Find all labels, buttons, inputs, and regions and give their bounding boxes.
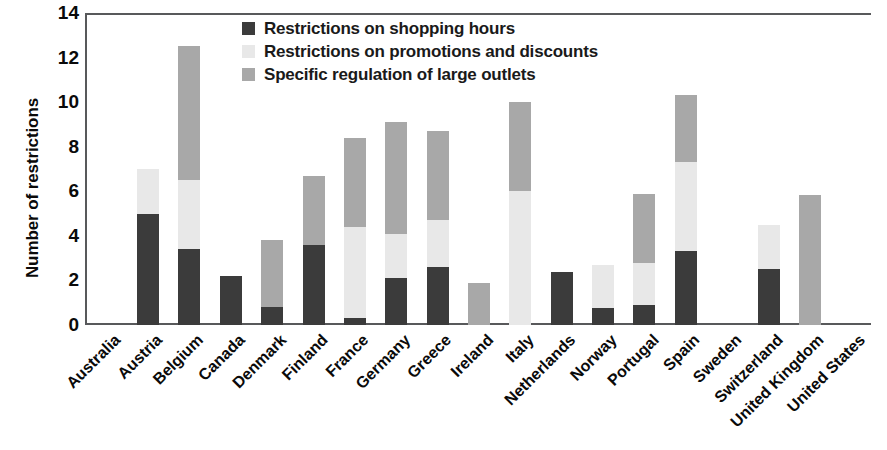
bar-group[interactable]	[758, 13, 780, 325]
y-axis-tick-labels: 02468101214	[33, 13, 79, 325]
legend-item[interactable]: Restrictions on promotions and discounts	[242, 41, 702, 62]
bar-segment[interactable]	[137, 169, 159, 214]
x-tick-label: Ireland	[447, 331, 497, 381]
bar-segment[interactable]	[633, 263, 655, 305]
bar-segment[interactable]	[509, 191, 531, 325]
bar-segment[interactable]	[178, 180, 200, 249]
bar-segment[interactable]	[427, 131, 449, 220]
bar-segment[interactable]	[220, 276, 242, 325]
legend-swatch-large-outlets	[242, 68, 255, 81]
bar-segment[interactable]	[551, 272, 573, 325]
bar-group[interactable]	[840, 13, 862, 325]
bar-group[interactable]	[178, 13, 200, 325]
x-axis-tick-labels: AustraliaAustriaBelgiumCanadaDenmarkFinl…	[85, 327, 871, 447]
bar-segment[interactable]	[427, 220, 449, 267]
bar-segment[interactable]	[261, 240, 283, 307]
bar-segment[interactable]	[178, 249, 200, 325]
y-tick-label: 6	[39, 180, 79, 202]
bar-segment[interactable]	[633, 305, 655, 325]
bar-segment[interactable]	[468, 283, 490, 325]
bar-segment[interactable]	[344, 318, 366, 325]
y-tick-label: 10	[39, 91, 79, 113]
stacked-bar-chart: Number of restrictions 02468101214 Austr…	[0, 0, 887, 450]
chart-legend: Restrictions on shopping hoursRestrictio…	[242, 18, 702, 87]
bar-segment[interactable]	[385, 234, 407, 279]
y-tick-label: 4	[39, 225, 79, 247]
legend-item[interactable]: Specific regulation of large outlets	[242, 64, 702, 85]
bar-group[interactable]	[137, 13, 159, 325]
bar-segment[interactable]	[758, 269, 780, 325]
y-tick-label: 12	[39, 47, 79, 69]
y-tick-label: 0	[39, 314, 79, 336]
bar-segment[interactable]	[178, 46, 200, 180]
bar-segment[interactable]	[675, 95, 697, 162]
bar-segment[interactable]	[344, 138, 366, 227]
legend-item-label: Restrictions on shopping hours	[264, 19, 515, 39]
bar-segment[interactable]	[675, 251, 697, 325]
legend-item-label: Specific regulation of large outlets	[264, 65, 535, 85]
bar-segment[interactable]	[509, 102, 531, 191]
bar-group[interactable]	[96, 13, 118, 325]
y-tick-label: 2	[39, 269, 79, 291]
bar-segment[interactable]	[344, 227, 366, 318]
legend-item[interactable]: Restrictions on shopping hours	[242, 18, 702, 39]
legend-swatch-shopping-hours	[242, 22, 255, 35]
bar-segment[interactable]	[303, 176, 325, 245]
bar-segment[interactable]	[137, 214, 159, 325]
bar-segment[interactable]	[675, 162, 697, 251]
bar-segment[interactable]	[592, 265, 614, 308]
bar-segment[interactable]	[592, 308, 614, 325]
bar-segment[interactable]	[385, 122, 407, 233]
bar-group[interactable]	[799, 13, 821, 325]
y-tick-label: 8	[39, 136, 79, 158]
x-tick-label: Greece	[404, 331, 455, 382]
bar-segment[interactable]	[799, 195, 821, 325]
bar-segment[interactable]	[758, 225, 780, 270]
x-tick-label: Italy	[503, 331, 538, 366]
legend-swatch-promotions-discounts	[242, 45, 255, 58]
legend-item-label: Restrictions on promotions and discounts	[264, 42, 598, 62]
bar-segment[interactable]	[427, 267, 449, 325]
x-tick-label: Australia	[63, 331, 124, 392]
bar-segment[interactable]	[385, 278, 407, 325]
bar-segment[interactable]	[633, 194, 655, 263]
y-tick-label: 14	[39, 2, 79, 24]
bar-group[interactable]	[716, 13, 738, 325]
bar-segment[interactable]	[303, 245, 325, 325]
bar-segment[interactable]	[261, 307, 283, 325]
bar-group[interactable]	[220, 13, 242, 325]
